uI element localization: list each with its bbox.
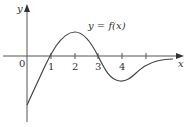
x-axis-label: x bbox=[178, 58, 184, 69]
y-axis-label: y bbox=[16, 3, 23, 14]
curve-label: y = f(x) bbox=[87, 20, 126, 31]
origin-label: 0 bbox=[19, 58, 25, 69]
graph: y x 0 1 2 3 4 y = f(x) bbox=[0, 0, 188, 127]
tick-label-2: 2 bbox=[72, 61, 78, 72]
y-axis-arrow-icon bbox=[24, 4, 30, 12]
tick-label-3: 3 bbox=[95, 61, 101, 72]
tick-label-1: 1 bbox=[48, 61, 54, 72]
tick-label-4: 4 bbox=[119, 61, 125, 72]
